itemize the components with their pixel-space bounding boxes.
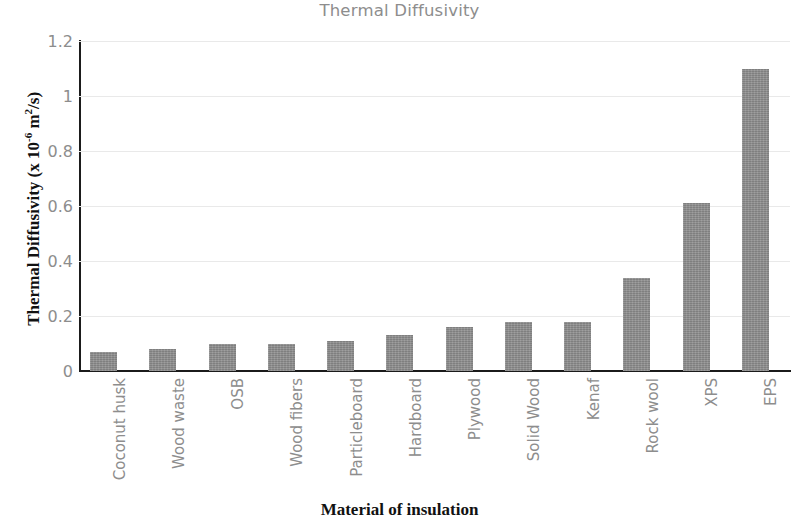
x-axis-tick-label: Wood waste	[170, 378, 188, 508]
bar	[505, 322, 532, 372]
bar	[386, 335, 413, 371]
x-axis-tick-label: EPS	[762, 378, 780, 508]
bar	[446, 327, 473, 371]
y-axis-tick-label: 0	[3, 362, 73, 381]
y-axis-title-exponent-1: -6	[22, 133, 34, 142]
y-axis-title-prefix: Thermal Diffusivity (x 10	[24, 142, 43, 326]
bar	[149, 349, 176, 371]
bar	[623, 278, 650, 372]
x-axis-tick-label: Coconut husk	[111, 378, 129, 508]
bar	[268, 344, 295, 372]
x-axis-tick-label: OSB	[229, 378, 247, 508]
x-axis-tick-label: Kenaf	[585, 378, 603, 508]
x-axis-tick-labels: Coconut huskWood wasteOSBWood fibersPart…	[79, 372, 790, 492]
y-axis-title-mid: m	[24, 114, 43, 132]
x-axis-tick-label: Wood fibers	[288, 378, 306, 508]
bar	[327, 341, 354, 371]
plot-area	[79, 41, 790, 371]
x-axis-title: Material of insulation	[0, 500, 799, 520]
bar	[683, 203, 710, 371]
chart-title: Thermal Diffusivity	[0, 1, 799, 20]
bar	[209, 344, 236, 372]
bar	[564, 322, 591, 372]
x-axis-tick-label: Rock wool	[644, 378, 662, 508]
x-axis-tick-label: XPS	[703, 378, 721, 508]
y-axis-title: Thermal Diffusivity (x 10-6 m2/s)	[22, 64, 44, 354]
x-axis-tick-label: Particleboard	[348, 378, 366, 508]
bar-series	[79, 41, 790, 371]
y-axis-title-suffix: /s)	[24, 92, 43, 109]
thermal-diffusivity-bar-chart: Thermal Diffusivity 00.20.40.60.811.2 Co…	[0, 0, 799, 526]
x-axis-tick-label: Hardboard	[407, 378, 425, 508]
x-axis-tick-label: Solid Wood	[525, 378, 543, 508]
y-axis-tick-label: 1.2	[3, 32, 73, 51]
bar	[90, 352, 117, 371]
y-axis-title-exponent-2: 2	[22, 109, 34, 115]
bar	[742, 69, 769, 372]
x-axis-tick-label: Plywood	[466, 378, 484, 508]
